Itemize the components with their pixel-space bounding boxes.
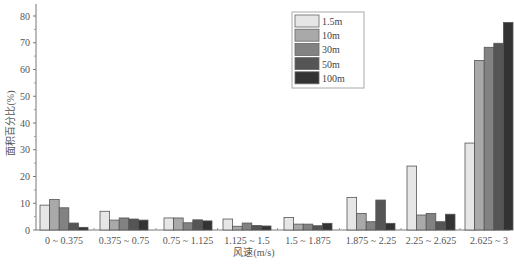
bar-1_5m: [284, 217, 294, 230]
y-tick-label: 50: [20, 91, 30, 102]
bar-30m: [242, 223, 252, 230]
bar-50m: [376, 200, 386, 230]
bar-30m: [484, 47, 494, 230]
x-axis-title: 风速(m/s): [233, 247, 274, 259]
bar-1_5m: [164, 218, 174, 230]
x-tick-label: 0.375 ~ 0.75: [99, 235, 149, 246]
bar-1_5m: [407, 166, 417, 230]
bar-30m: [119, 218, 129, 230]
legend-swatch: [295, 29, 319, 41]
legend-swatch: [295, 43, 319, 55]
x-tick-label: 0 ~ 0.375: [45, 235, 83, 246]
bar-1_5m: [223, 219, 233, 230]
bar-50m: [129, 219, 139, 230]
bar-30m: [183, 223, 193, 230]
bar-50m: [69, 223, 79, 230]
bar-10m: [357, 213, 367, 230]
legend-swatch: [295, 15, 319, 27]
legend-label: 30m: [322, 44, 340, 55]
y-tick-label: 80: [20, 11, 30, 22]
bar-50m: [313, 226, 323, 230]
legend-swatch: [295, 72, 319, 84]
bar-10m: [233, 226, 243, 230]
bar-50m: [193, 220, 203, 230]
y-tick-label: 20: [20, 171, 30, 182]
bar-100m: [322, 223, 332, 230]
bar-50m: [494, 43, 504, 230]
bar-30m: [426, 213, 436, 230]
y-tick-label: 30: [20, 144, 30, 155]
x-axis: 0 ~ 0.3750.375 ~ 0.750.75 ~ 1.1251.125 ~…: [36, 228, 510, 246]
bar-10m: [417, 215, 427, 230]
y-tick-label: 60: [20, 64, 30, 75]
x-tick-label: 1.875 ~ 2.25: [346, 235, 396, 246]
bar-10m: [110, 220, 120, 230]
legend-swatch: [295, 58, 319, 70]
bar-100m: [78, 227, 88, 230]
bar-100m: [202, 221, 212, 230]
legend-label: 100m: [322, 73, 345, 84]
x-tick-label: 1.125 ~ 1.5: [224, 235, 269, 246]
y-tick-label: 10: [20, 198, 30, 209]
bars: [40, 22, 513, 230]
bar-30m: [303, 224, 313, 230]
y-tick-label: 0: [25, 225, 30, 236]
bar-100m: [503, 22, 513, 230]
bar-50m: [252, 225, 262, 230]
bar-1_5m: [40, 205, 50, 230]
y-axis: 01020304050607080: [20, 4, 36, 236]
bar-10m: [475, 60, 485, 230]
bar-chart: 01020304050607080 0 ~ 0.3750.375 ~ 0.750…: [0, 0, 514, 266]
legend-label: 50m: [322, 59, 340, 70]
bar-100m: [138, 220, 148, 230]
x-tick-label: 2.625 ~ 3: [470, 235, 508, 246]
legend-label: 1.5m: [322, 16, 343, 27]
bar-100m: [445, 214, 455, 230]
legend: 1.5m10m30m50m100m: [292, 12, 364, 88]
y-tick-label: 70: [20, 37, 30, 48]
bar-10m: [294, 224, 304, 230]
x-tick-label: 2.25 ~ 2.625: [406, 235, 456, 246]
y-axis-title: 面积百分比(%): [5, 91, 17, 156]
x-tick-label: 1.5 ~ 1.875: [285, 235, 330, 246]
bar-1_5m: [347, 197, 357, 230]
bar-1_5m: [465, 143, 475, 230]
bar-1_5m: [100, 211, 110, 230]
bar-10m: [50, 200, 60, 230]
bar-10m: [174, 218, 184, 230]
y-tick-label: 40: [20, 118, 30, 129]
legend-label: 10m: [322, 30, 340, 41]
x-tick-label: 0.75 ~ 1.125: [163, 235, 213, 246]
bar-30m: [366, 222, 376, 230]
bar-100m: [261, 226, 271, 230]
bar-50m: [436, 222, 446, 230]
bar-30m: [59, 208, 69, 230]
bar-100m: [385, 223, 395, 230]
